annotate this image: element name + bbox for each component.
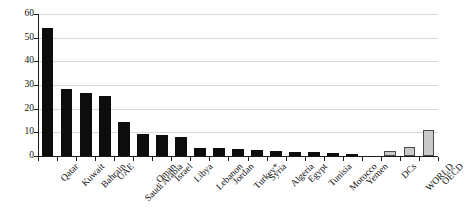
x-axis-tick-mark bbox=[305, 157, 306, 161]
x-axis-tick-mark bbox=[133, 157, 134, 161]
x-axis-tick-mark bbox=[57, 157, 58, 161]
x-axis-tick-mark bbox=[248, 157, 249, 161]
x-axis-tick-mark bbox=[114, 157, 115, 161]
y-axis-tick-mark bbox=[34, 38, 38, 39]
x-axis-tick-label: Libya bbox=[192, 162, 214, 184]
x-axis-tick-label-text: DCs bbox=[400, 162, 419, 181]
x-axis-tick-label-text: Qatar bbox=[59, 162, 81, 184]
x-axis-tick-mark bbox=[171, 157, 172, 161]
y-axis-tick-mark bbox=[34, 14, 38, 15]
x-axis-tick-mark bbox=[209, 157, 210, 161]
x-axis-tick-mark bbox=[95, 157, 96, 161]
x-axis-tick-mark bbox=[190, 157, 191, 161]
x-axis-tick-mark bbox=[228, 157, 229, 161]
x-axis-tick-mark bbox=[438, 157, 439, 161]
y-axis-tick-mark bbox=[34, 132, 38, 133]
x-axis-tick-mark bbox=[381, 157, 382, 161]
y-axis-tick-mark bbox=[34, 85, 38, 86]
y-axis-tick-mark bbox=[34, 109, 38, 110]
y-axis-tick-mark bbox=[34, 61, 38, 62]
x-axis-tick-label: Qatar bbox=[59, 162, 81, 184]
x-axis-tick-mark bbox=[324, 157, 325, 161]
x-axis-tick-mark bbox=[400, 157, 401, 161]
x-axis-tick-mark bbox=[362, 157, 363, 161]
x-axis-tick-mark bbox=[38, 157, 39, 161]
x-axis-tick-mark bbox=[152, 157, 153, 161]
x-axis-tick-mark bbox=[343, 157, 344, 161]
x-axis-tick-label-text: Libya bbox=[192, 162, 214, 184]
x-axis-tick-mark bbox=[419, 157, 420, 161]
x-axis-tick-mark bbox=[267, 157, 268, 161]
x-axis-tick-label: DCs bbox=[400, 162, 419, 181]
x-axis-tick-mark bbox=[286, 157, 287, 161]
x-axis-tick-mark bbox=[76, 157, 77, 161]
